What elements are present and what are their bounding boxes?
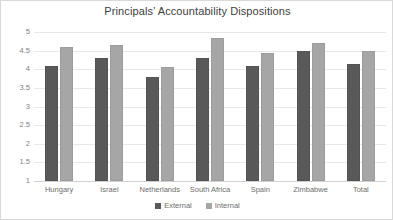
x-axis-labels: HungaryIsraelNetherlandsSouth AfricaSpai… [34, 183, 386, 197]
y-axis-tick-label: 1 [4, 177, 30, 185]
legend-swatch-icon [206, 203, 212, 209]
bar-groups [34, 32, 386, 181]
bar-group [34, 32, 84, 181]
bar-internal[interactable] [110, 45, 123, 181]
bar-internal[interactable] [211, 38, 224, 181]
x-axis-label: Netherlands [135, 183, 185, 197]
y-axis-tick-label: 4.5 [4, 47, 30, 55]
chart-legend: External Internal [1, 201, 393, 210]
bar-external[interactable] [95, 58, 108, 181]
x-axis-label: Hungary [34, 183, 84, 197]
x-axis-label: Israel [84, 183, 134, 197]
bar-group [135, 32, 185, 181]
bar-group [336, 32, 386, 181]
y-axis-tick-label: 2.5 [4, 121, 30, 129]
bar-internal[interactable] [312, 43, 325, 181]
legend-label: Internal [215, 201, 240, 210]
bar-external[interactable] [196, 58, 209, 181]
legend-item-external[interactable]: External [155, 201, 192, 210]
bar-internal[interactable] [261, 53, 274, 182]
legend-swatch-icon [155, 203, 161, 209]
chart-container: Principals’ Accountability Dispositions … [0, 0, 393, 220]
bar-group [185, 32, 235, 181]
bar-group [84, 32, 134, 181]
y-axis-tick-label: 1.5 [4, 158, 30, 166]
x-axis-label: Spain [235, 183, 285, 197]
x-axis-label: South Africa [185, 183, 235, 197]
chart-title: Principals’ Accountability Dispositions [1, 5, 393, 17]
y-axis-tick-label: 3.5 [4, 84, 30, 92]
bar-internal[interactable] [161, 67, 174, 181]
x-axis-label: Zimbabwe [285, 183, 335, 197]
bar-internal[interactable] [60, 47, 73, 181]
bar-external[interactable] [347, 64, 360, 181]
legend-label: External [164, 201, 192, 210]
gridline [34, 181, 386, 182]
y-axis-tick-label: 4 [4, 65, 30, 73]
y-axis-tick-label: 3 [4, 103, 30, 111]
x-axis-label: Total [336, 183, 386, 197]
bar-external[interactable] [246, 66, 259, 181]
y-axis-tick-label: 5 [4, 28, 30, 36]
legend-item-internal[interactable]: Internal [206, 201, 240, 210]
bar-external[interactable] [146, 77, 159, 181]
y-axis-tick-label: 2 [4, 140, 30, 148]
bar-external[interactable] [45, 66, 58, 181]
bar-internal[interactable] [362, 51, 375, 181]
bar-group [285, 32, 335, 181]
bar-group [235, 32, 285, 181]
bar-external[interactable] [297, 51, 310, 181]
